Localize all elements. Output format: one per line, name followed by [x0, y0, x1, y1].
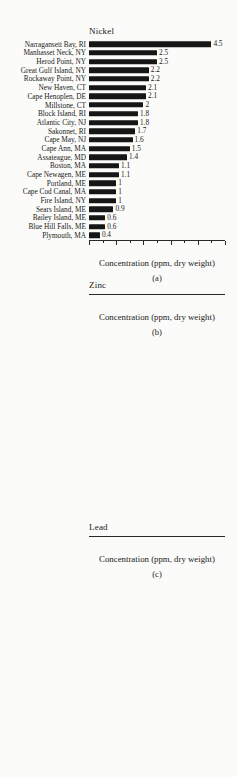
bar-track: 2.2	[89, 75, 225, 84]
minor-tick-mark	[130, 241, 131, 244]
bar-track: 2.2	[89, 66, 225, 75]
bar	[89, 215, 105, 220]
bar-track: 2.5	[89, 57, 225, 66]
chart-title-nickel: Nickel	[89, 26, 237, 37]
category-label: Bailey Island, ME	[0, 214, 89, 221]
bar	[89, 172, 119, 177]
category-label: Sears Island, ME	[0, 206, 89, 213]
x-tick-labels	[89, 542, 225, 552]
bar-row: Portland, ME1	[0, 179, 237, 188]
category-label: Rockaway Point, NY	[0, 75, 89, 82]
bar-track: 1.7	[89, 127, 225, 136]
bar	[89, 198, 116, 203]
bar	[89, 233, 100, 238]
bar	[89, 42, 211, 47]
bar-value-label: 2.5	[159, 49, 168, 56]
category-label: Herod Point, NY	[0, 58, 89, 65]
bar-track: 0.4	[89, 231, 225, 240]
minor-tick-mark	[184, 241, 185, 244]
bar	[89, 120, 138, 125]
bar-track: 1	[89, 188, 225, 197]
category-label: Great Gulf Island, NY	[0, 67, 89, 74]
category-label: Cape Newagen, ME	[0, 171, 89, 178]
bar-row: Blue Hill Falls, ME0.6	[0, 222, 237, 231]
x-axis-label: Concentration (ppm, dry weight)	[89, 257, 225, 269]
major-tick-mark	[116, 241, 117, 245]
bar-value-label: 2.1	[148, 93, 157, 100]
bar	[89, 76, 149, 81]
bar-row: Fire Island, NY1	[0, 196, 237, 205]
category-label: Sakonnet, RI	[0, 128, 89, 135]
bar-row: Assateague, MD1.4	[0, 153, 237, 162]
bar-track: 1.6	[89, 136, 225, 145]
bar-value-label: 1.8	[140, 110, 149, 117]
bar-row: Cape Newagen, ME1.1	[0, 170, 237, 179]
bar	[89, 68, 149, 73]
metal-concentration-figure: Nickel Narragansett Bay, RI4.5Manhasset …	[0, 0, 237, 777]
category-label: Manhasset Neck, NY	[0, 49, 89, 56]
bar-row: Cape Henoplen, DE2.1	[0, 92, 237, 101]
bar-track: 0.6	[89, 214, 225, 223]
bar-track: 4.5	[89, 40, 225, 49]
lead-bar-chart: Lead Concentration (ppm, dry weight) (c)	[0, 522, 237, 579]
bar-track: 2	[89, 101, 225, 110]
bar-row: Sakonnet, RI1.7	[0, 127, 237, 136]
bar-value-label: 1.1	[121, 162, 130, 169]
bar-value-label: 2.2	[151, 67, 160, 74]
bar	[89, 111, 138, 116]
major-tick-mark	[89, 241, 90, 245]
bar-row: Block Island, RI1.8	[0, 110, 237, 119]
bar-row: Atlantic City, NJ1.8	[0, 118, 237, 127]
bar-value-label: 1.6	[135, 136, 144, 143]
bar-value-label: 2.5	[159, 58, 168, 65]
bar-track: 2.5	[89, 49, 225, 58]
bar	[89, 146, 130, 151]
minor-tick-mark	[211, 241, 212, 244]
category-label: Narragansett Bay, RI	[0, 41, 89, 48]
bar-row: Great Gulf Island, NY2.2	[0, 66, 237, 75]
bar-value-label: 1.4	[129, 154, 138, 161]
bar-track: 1	[89, 179, 225, 188]
bar-track: 2.1	[89, 92, 225, 101]
category-label: Blue Hill Falls, ME	[0, 223, 89, 230]
major-tick-mark	[171, 241, 172, 245]
x-axis-label: Concentration (ppm, dry weight)	[89, 311, 225, 323]
bar	[89, 155, 127, 160]
bar-value-label: 0.6	[107, 214, 116, 221]
bar-value-label: 1.8	[140, 119, 149, 126]
category-label: Cape May, NJ	[0, 136, 89, 143]
bar	[89, 181, 116, 186]
bar-value-label: 0.4	[102, 232, 111, 239]
bar	[89, 189, 116, 194]
major-tick-mark	[198, 241, 199, 245]
bar-track: 0.9	[89, 205, 225, 214]
bar-value-label: 0.6	[107, 223, 116, 230]
bar-row: Millstone, CT2	[0, 101, 237, 110]
nickel-bar-chart: Nickel Narragansett Bay, RI4.5Manhasset …	[0, 26, 237, 283]
x-tick-labels	[89, 246, 225, 256]
panel-label-b: (b)	[89, 327, 225, 337]
category-label: Plymouth, MA	[0, 232, 89, 239]
category-label: Portland, ME	[0, 180, 89, 187]
bar-row: Rockaway Point, NY2.2	[0, 75, 237, 84]
minor-tick-mark	[103, 241, 104, 244]
category-label: Block Island, RI	[0, 110, 89, 117]
category-label: Assateague, MD	[0, 154, 89, 161]
category-label: Millstone, CT	[0, 102, 89, 109]
x-axis-label: Concentration (ppm, dry weight)	[89, 553, 225, 565]
chart-title-zinc: Zinc	[89, 280, 237, 291]
category-label: Fire Island, NY	[0, 197, 89, 204]
bar-rows: Narragansett Bay, RI4.5Manhasset Neck, N…	[0, 40, 237, 240]
bar-track: 1	[89, 196, 225, 205]
minor-tick-mark	[157, 241, 158, 244]
bar-row: Plymouth, MA0.4	[0, 231, 237, 240]
bar-track: 1.8	[89, 110, 225, 119]
bar-row: Herod Point, NY2.5	[0, 57, 237, 66]
bar-row: Cape May, NJ1.6	[0, 136, 237, 145]
bar-row: Boston, MA1.1	[0, 162, 237, 171]
bar	[89, 163, 119, 168]
bar-value-label: 4.5	[213, 41, 222, 48]
chart-title-lead: Lead	[89, 522, 237, 533]
bar	[89, 224, 105, 229]
x-tick-labels	[89, 300, 225, 310]
